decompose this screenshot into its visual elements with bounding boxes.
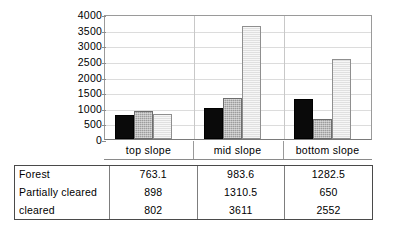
- y-axis-tickmark: [102, 32, 106, 33]
- plot-frame: [104, 15, 372, 140]
- bar-forest-mid-slope: [204, 108, 223, 139]
- gridline: [105, 47, 371, 48]
- bar-cleared-mid-slope: [242, 26, 261, 139]
- table-cell: 3611: [197, 201, 285, 219]
- bar-partially-cleared-top-slope: [134, 111, 153, 139]
- x-axis-category-label: bottom slope: [283, 141, 372, 160]
- table-cell: 898: [110, 184, 198, 202]
- bar-forest-top-slope: [115, 115, 134, 139]
- y-axis-tickmark: [102, 94, 106, 95]
- y-axis-tick-label: 0: [58, 135, 102, 146]
- x-axis-category-label: top slope: [104, 141, 193, 160]
- table-cell: 2552: [285, 201, 373, 219]
- table-cell: 650: [285, 184, 373, 202]
- bar-cleared-bottom-slope: [332, 59, 351, 139]
- bar-forest-bottom-slope: [294, 99, 313, 139]
- y-axis-tick-label: 3500: [58, 26, 102, 37]
- y-axis-tick-label: 2500: [58, 57, 102, 68]
- gridline: [105, 32, 371, 33]
- group-separator: [284, 16, 285, 139]
- y-axis-tickmark: [102, 79, 106, 80]
- bar-partially-cleared-bottom-slope: [313, 119, 332, 139]
- y-axis-tick-label: 1000: [58, 104, 102, 115]
- x-axis-category-label: mid slope: [193, 141, 282, 160]
- bar-partially-cleared-mid-slope: [223, 98, 242, 139]
- y-axis-tick-label: 3000: [58, 41, 102, 52]
- table-row-label: Forest: [15, 166, 110, 184]
- table-row-label: Partially cleared: [15, 184, 110, 202]
- y-axis-tickmark: [102, 63, 106, 64]
- bar-chart-figure: 40003500300025002000150010005000 top slo…: [0, 0, 394, 225]
- table-cell: 1310.5: [197, 184, 285, 202]
- group-separator: [194, 16, 195, 139]
- table-row: Forest763.1983.61282.5: [15, 166, 372, 184]
- bar-cleared-top-slope: [153, 114, 172, 139]
- table-cell: 1282.5: [285, 166, 373, 184]
- table-cell: 983.6: [197, 166, 285, 184]
- x-axis-category-band: top slopemid slopebottom slope: [104, 141, 372, 160]
- y-axis-tick-label: 1500: [58, 88, 102, 99]
- table-row: Partially cleared8981310.5650: [15, 184, 372, 202]
- y-axis-tick-label: 4000: [58, 10, 102, 21]
- chart-plot-area: 40003500300025002000150010005000: [0, 0, 394, 160]
- table-cell: 763.1: [110, 166, 198, 184]
- y-axis-tickmark: [102, 16, 106, 17]
- y-axis-tickmark: [102, 125, 106, 126]
- chart-data-table: Forest763.1983.61282.5Partially cleared8…: [14, 165, 373, 220]
- y-axis-tick-label: 2000: [58, 73, 102, 84]
- y-axis-tickmark: [102, 110, 106, 111]
- table-cell: 802: [110, 201, 198, 219]
- data-table-body: Forest763.1983.61282.5Partially cleared8…: [15, 166, 372, 219]
- data-table-element: Forest763.1983.61282.5Partially cleared8…: [15, 166, 372, 219]
- table-row: cleared80236112552: [15, 201, 372, 219]
- y-axis-tickmark: [102, 47, 106, 48]
- y-axis-tick-label: 500: [58, 119, 102, 130]
- table-row-label: cleared: [15, 201, 110, 219]
- y-axis-tick-labels: 40003500300025002000150010005000: [58, 9, 102, 147]
